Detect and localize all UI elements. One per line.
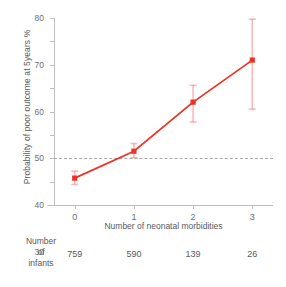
counts-value: 139 bbox=[186, 249, 201, 259]
series-line bbox=[75, 60, 253, 178]
y-tick-label: 70 bbox=[35, 60, 44, 70]
counts-row-label-line: infants bbox=[12, 258, 70, 269]
counts-row-label-line: of bbox=[12, 247, 70, 258]
y-tick-label: 80 bbox=[35, 13, 44, 23]
x-tick-mark bbox=[134, 205, 135, 209]
counts-value: 26 bbox=[247, 249, 257, 259]
x-axis-title: Number of neonatal morbidities bbox=[54, 221, 273, 231]
data-point-marker bbox=[72, 176, 77, 181]
x-tick-mark bbox=[75, 205, 76, 209]
counts-row-label: Numberofinfants bbox=[12, 236, 70, 269]
plot-area: 01020304050607080 0123 bbox=[54, 18, 273, 205]
x-tick-mark bbox=[252, 205, 253, 209]
data-point-marker bbox=[190, 100, 195, 105]
y-axis-title: Probability of poor outcome at 5years % bbox=[22, 7, 32, 207]
counts-row-label-line: Number bbox=[12, 236, 70, 247]
y-tick-mark: 0 bbox=[50, 205, 54, 206]
data-point-marker bbox=[250, 57, 255, 62]
data-point-marker bbox=[131, 149, 136, 154]
y-tick-label: 60 bbox=[35, 107, 44, 117]
x-axis-line bbox=[48, 205, 273, 206]
y-tick-label: 50 bbox=[35, 153, 44, 163]
series-plot bbox=[54, 18, 273, 205]
chart-figure: Probability of poor outcome at 5years % … bbox=[0, 0, 286, 287]
counts-value: 590 bbox=[126, 249, 141, 259]
counts-value: 759 bbox=[67, 249, 82, 259]
y-tick-label: 40 bbox=[35, 200, 44, 210]
x-tick-mark bbox=[193, 205, 194, 209]
